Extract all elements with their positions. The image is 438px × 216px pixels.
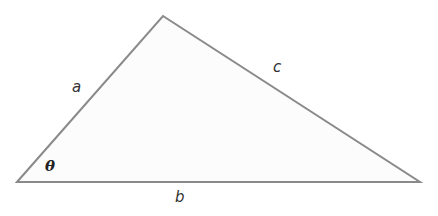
triangle-shape (0, 0, 438, 216)
side-a-label: a (72, 80, 81, 95)
triangle-polygon (17, 16, 420, 182)
side-b-label: b (175, 190, 185, 205)
angle-theta-label: θ (45, 159, 55, 174)
triangle-diagram: a b c θ (0, 0, 438, 216)
side-c-label: c (273, 60, 281, 75)
